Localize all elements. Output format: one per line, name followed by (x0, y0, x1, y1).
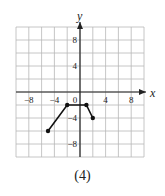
x-tick-label: −4 (50, 95, 60, 105)
data-point-dot (46, 129, 50, 133)
y-axis-label: y (76, 9, 83, 23)
x-axis-arrow-icon (139, 89, 146, 95)
data-point-dot (65, 103, 69, 107)
x-tick-label: 8 (129, 95, 134, 105)
y-axis-arrow-icon (77, 22, 83, 29)
x-axis-label: x (149, 86, 156, 100)
x-tick-label: −8 (24, 95, 34, 105)
y-tick-label: 4 (73, 61, 78, 71)
x-tick-label: 4 (103, 95, 108, 105)
axes (16, 22, 146, 157)
figure-caption: (4) (0, 168, 165, 184)
data-point-dot (84, 103, 88, 107)
y-tick-label: −8 (67, 139, 77, 149)
y-tick-label: −4 (67, 113, 77, 123)
x-tick-label: 0 (73, 95, 78, 105)
data-point-dot (91, 116, 95, 120)
coordinate-plane: −8−404884−4−8 x y (0, 0, 165, 196)
y-tick-label: 8 (73, 35, 78, 45)
